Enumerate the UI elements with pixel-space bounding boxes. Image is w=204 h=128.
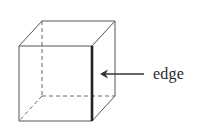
arrow-icon	[100, 70, 144, 79]
visible-edges	[19, 21, 115, 121]
top-left-depth-edge	[19, 21, 42, 46]
hidden-bottom-left-depth-edge	[19, 96, 42, 121]
bottom-right-depth-edge	[92, 96, 115, 121]
edge-label: edge	[153, 64, 184, 84]
top-right-depth-edge	[92, 21, 115, 46]
